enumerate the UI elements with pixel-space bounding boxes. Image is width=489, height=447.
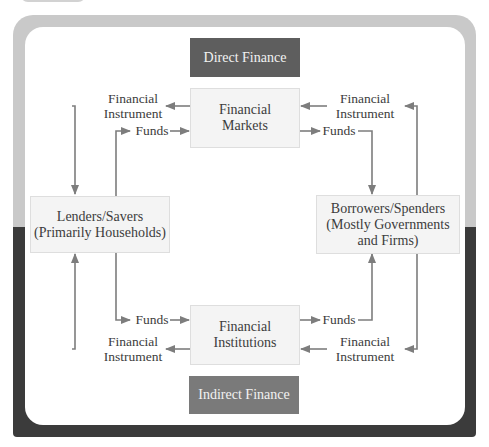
lenders-line-1: Lenders/Savers xyxy=(34,209,166,225)
top-right-funds-label: Funds xyxy=(321,123,357,138)
bottom-left-instrument-label: Financial Instrument xyxy=(98,334,168,364)
indirect-finance-banner: Indirect Finance xyxy=(189,376,299,414)
bottom-left-funds-label: Funds xyxy=(134,312,170,327)
top-tab xyxy=(20,0,86,2)
financial-markets-node: Financial Markets xyxy=(190,88,300,148)
label-line: Instrument xyxy=(98,106,168,121)
label-line: Instrument xyxy=(98,349,168,364)
label-line: Financial xyxy=(98,91,168,106)
borrowers-line-2: (Mostly Governments xyxy=(326,217,449,233)
markets-line-2: Markets xyxy=(219,118,271,134)
borrowers-line-3: and Firms) xyxy=(326,233,449,249)
borrowers-line-1: Borrowers/Spenders xyxy=(326,201,449,217)
institutions-line-2: Institutions xyxy=(213,335,276,351)
top-left-instrument-label: Financial Instrument xyxy=(98,91,168,121)
direct-finance-banner: Direct Finance xyxy=(190,38,300,77)
label-line: Instrument xyxy=(330,106,400,121)
financial-institutions-node: Financial Institutions xyxy=(190,305,300,365)
bottom-right-funds-label: Funds xyxy=(321,312,357,327)
label-line: Financial xyxy=(330,334,400,349)
borrowers-spenders-node: Borrowers/Spenders (Mostly Governments a… xyxy=(316,195,460,254)
label-line: Financial xyxy=(330,91,400,106)
direct-finance-label: Direct Finance xyxy=(204,50,287,66)
top-right-instrument-label: Financial Instrument xyxy=(330,91,400,121)
label-line: Instrument xyxy=(330,349,400,364)
markets-line-1: Financial xyxy=(219,102,271,118)
institutions-line-1: Financial xyxy=(213,319,276,335)
lenders-line-2: (Primarily Households) xyxy=(34,225,166,241)
indirect-finance-label: Indirect Finance xyxy=(198,387,289,403)
label-line: Financial xyxy=(98,334,168,349)
bottom-right-instrument-label: Financial Instrument xyxy=(330,334,400,364)
top-left-funds-label: Funds xyxy=(134,123,170,138)
lenders-savers-node: Lenders/Savers (Primarily Households) xyxy=(30,196,170,253)
